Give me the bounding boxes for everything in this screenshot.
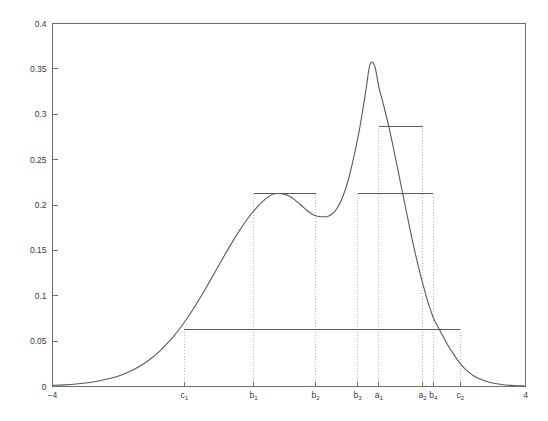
- density-level-set-chart: 00.050.10.150.20.250.30.350.4 −4c1b1b2b3…: [0, 0, 548, 421]
- x-tick-label-−4: −4: [48, 390, 58, 400]
- y-tick-label: 0.4: [35, 19, 47, 29]
- y-tick-label: 0: [42, 382, 47, 392]
- x-tick-subscript: 1: [380, 394, 384, 401]
- x-tick-label-c2: c2: [457, 390, 465, 401]
- x-tick-label-b1: b1: [249, 390, 258, 401]
- y-tick-label: 0.1: [35, 291, 47, 301]
- y-tick-label: 0.15: [30, 245, 47, 255]
- plot-frame: [53, 24, 526, 387]
- x-tick-subscript: 2: [461, 394, 465, 401]
- x-tick-label-a1: a1: [375, 390, 384, 401]
- x-axis-ticks-group: −4c1b1b2b3a1a2b4c24: [48, 382, 528, 401]
- figure-container: 00.050.10.150.20.250.30.350.4 −4c1b1b2b3…: [0, 0, 548, 421]
- axes-frame: [53, 24, 526, 387]
- x-tick-subscript: 4: [434, 394, 438, 401]
- x-tick-label-a2: a2: [419, 390, 428, 401]
- y-tick-label: 0.2: [35, 200, 47, 210]
- drop-lines-group: [184, 126, 460, 386]
- level-lines-group: [184, 126, 460, 329]
- x-tick-subscript: 1: [185, 394, 189, 401]
- x-tick-label-4: 4: [523, 390, 528, 400]
- y-tick-label: 0.3: [35, 109, 47, 119]
- x-tick-subscript: 2: [423, 394, 427, 401]
- density-curve-group: [53, 62, 526, 386]
- x-tick-subscript: 1: [254, 394, 258, 401]
- x-tick-label-b4: b4: [429, 390, 438, 401]
- density-curve: [53, 62, 526, 386]
- x-tick-subscript: 2: [316, 394, 320, 401]
- x-tick-label-b2: b2: [312, 390, 321, 401]
- x-tick-subscript: 3: [358, 394, 362, 401]
- y-tick-label: 0.35: [30, 64, 47, 74]
- x-tick-label-c1: c1: [180, 390, 188, 401]
- x-tick-label-b3: b3: [353, 390, 362, 401]
- y-tick-label: 0.05: [30, 336, 47, 346]
- y-tick-label: 0.25: [30, 155, 47, 165]
- y-axis-ticks-group: 00.050.10.150.20.250.30.350.4: [30, 19, 58, 392]
